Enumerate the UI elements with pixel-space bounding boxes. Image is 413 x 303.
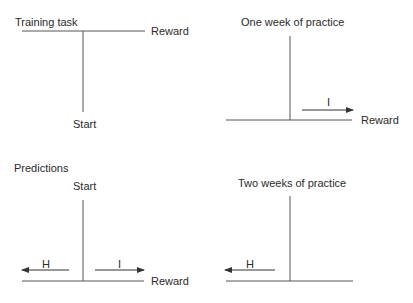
one-week-title: One week of practice <box>241 16 344 28</box>
training-start-label: Start <box>73 118 96 130</box>
training-reward-label: Reward <box>151 25 189 37</box>
two-weeks-arrow-label: H <box>246 258 254 270</box>
training-title: Training task <box>15 16 78 28</box>
predictions-left-arrow-label: H <box>42 258 50 270</box>
two-weeks-maze <box>225 196 353 281</box>
one-week-maze <box>226 36 353 120</box>
one-week-reward-label: Reward <box>361 114 399 126</box>
two-weeks-title: Two weeks of practice <box>238 177 346 189</box>
maze-diagram <box>0 0 413 303</box>
one-week-arrow-label: I <box>327 96 330 108</box>
predictions-reward-label: Reward <box>151 275 189 287</box>
predictions-start-label: Start <box>73 180 96 192</box>
predictions-right-arrow-label: I <box>118 258 121 270</box>
predictions-maze <box>22 200 144 281</box>
training-task-maze <box>22 31 145 112</box>
predictions-title: Predictions <box>14 162 68 174</box>
